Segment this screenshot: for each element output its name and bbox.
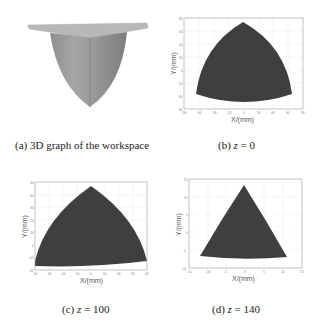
svg-text:5: 5 xyxy=(263,270,265,274)
svg-text:15: 15 xyxy=(184,178,188,182)
svg-text:15: 15 xyxy=(300,270,304,274)
svg-text:5: 5 xyxy=(186,213,188,217)
svg-text:0: 0 xyxy=(186,231,188,235)
plot-z140: 15105 0-5-10 -15-10-5 0510 15 X/(mm) Y/(… xyxy=(0,0,323,300)
svg-text:10: 10 xyxy=(281,270,285,274)
svg-text:-5: -5 xyxy=(183,249,186,253)
x-axis-label: X/(mm) xyxy=(232,275,255,283)
svg-text:-5: -5 xyxy=(224,270,227,274)
y-axis-label: Y/(mm) xyxy=(175,213,183,236)
svg-text:0: 0 xyxy=(244,270,246,274)
svg-text:-15: -15 xyxy=(187,270,192,274)
svg-text:10: 10 xyxy=(184,196,188,200)
panel-z140: 15105 0-5-10 -15-10-5 0510 15 X/(mm) Y/(… xyxy=(0,0,323,333)
svg-text:-10: -10 xyxy=(206,270,211,274)
caption-d: (d) z = 140 xyxy=(212,303,260,315)
workspace-region-z140 xyxy=(200,185,287,259)
svg-text:-10: -10 xyxy=(182,267,187,271)
